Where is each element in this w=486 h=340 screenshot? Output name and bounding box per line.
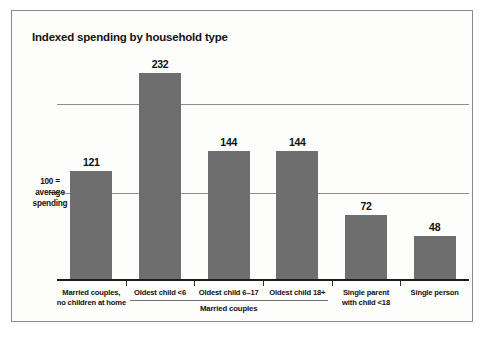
axis-tick-2: [194, 280, 195, 286]
bar-3: [208, 151, 250, 279]
bar-value-2: 232: [130, 58, 190, 70]
plot-area: 1212321441447248: [57, 56, 469, 280]
category-label-line2: with child <18: [321, 298, 411, 308]
bar-2: [139, 73, 181, 279]
axis-tick-3: [263, 280, 264, 286]
bar-5: [345, 215, 387, 279]
category-label-line1: Single person: [390, 288, 480, 298]
axis-tick-5: [400, 280, 401, 286]
chart-frame: Indexed spending by household type 100 =…: [11, 10, 473, 322]
bar-4: [276, 151, 318, 279]
bar-6: [414, 236, 456, 279]
bar-value-3: 144: [199, 136, 259, 148]
axis-tick-1: [126, 280, 127, 286]
bar-value-5: 72: [336, 200, 396, 212]
bar-value-4: 144: [267, 136, 327, 148]
group-bracket-label: Married couples: [130, 304, 328, 313]
bar-1: [70, 171, 112, 279]
bar-value-1: 121: [61, 156, 121, 168]
bar-value-6: 48: [405, 221, 465, 233]
group-bracket-rule: [130, 300, 328, 301]
chart-title: Indexed spending by household type: [32, 31, 228, 43]
category-label-6: Single person: [390, 288, 480, 298]
axis-tick-4: [332, 280, 333, 286]
category-label-line2: no children at home: [46, 298, 136, 308]
gridline-200: [57, 104, 469, 105]
gridline-100: [57, 193, 469, 194]
